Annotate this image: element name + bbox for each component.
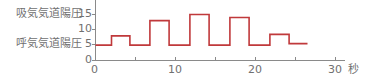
pressure-chart	[0, 0, 367, 81]
axes	[92, 0, 345, 61]
pressure-step-line	[96, 15, 308, 46]
